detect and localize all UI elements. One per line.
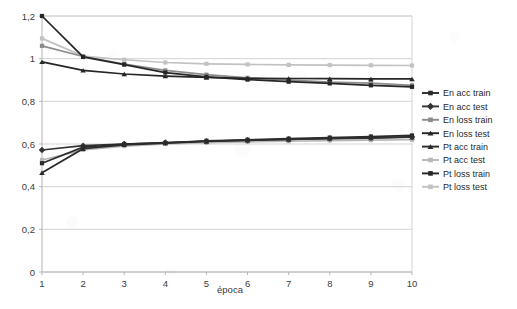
legend-label: En acc train [443,88,491,98]
data-marker-square [328,136,332,140]
data-marker-square [40,36,44,40]
data-marker-square [410,85,414,89]
data-marker-square [122,63,126,67]
data-marker-square [122,142,126,146]
x-tick-label: 9 [368,278,373,289]
y-tick-label: 1 [30,53,35,64]
data-marker-square [40,161,44,165]
legend-label: En loss test [443,129,490,139]
legend-label: Pt loss test [443,182,488,192]
y-tick-label: 0,2 [22,224,35,235]
legend-label: Pt acc test [443,155,486,165]
data-marker-square [428,158,433,163]
x-tick-label: 10 [407,278,418,289]
data-marker-square [328,63,332,67]
y-tick-label: 0,6 [22,139,35,150]
data-marker-square [40,14,44,18]
legend-label: En loss train [443,115,493,125]
chart-background [0,0,517,309]
data-marker-square [122,58,126,62]
y-tick-label: 0 [30,267,35,278]
data-marker-square [369,63,373,67]
line-chart: 00,20,40,60,811,2 12345678910 época En a… [0,0,517,309]
data-marker-square [287,137,291,141]
data-marker-square [328,81,332,85]
data-marker-square [369,134,373,138]
x-axis-title: época [217,284,244,295]
data-marker-square [287,63,291,67]
legend-label: Pt acc train [443,142,488,152]
data-marker-square [163,70,167,74]
data-marker-square [428,171,433,176]
data-marker-square [287,80,291,84]
x-tick-label: 4 [163,278,168,289]
x-tick-label: 7 [286,278,291,289]
chart-container: 00,20,40,60,811,2 12345678910 época En a… [0,0,517,309]
data-marker-square [245,62,249,66]
x-tick-label: 8 [327,278,332,289]
data-marker-square [40,44,44,48]
data-marker-square [245,138,249,142]
legend-label: Pt loss train [443,169,490,179]
y-tick-label: 1,2 [22,11,35,22]
x-tick-label: 6 [245,278,250,289]
legend-label: En acc test [443,102,488,112]
data-marker-square [428,91,433,96]
data-marker-square [245,77,249,81]
data-marker-square [410,133,414,137]
x-tick-label: 2 [80,278,85,289]
data-marker-square [204,62,208,66]
data-marker-square [428,118,433,123]
y-tick-label: 0,4 [22,181,35,192]
data-marker-square [163,60,167,64]
y-tick-label: 0,8 [22,96,35,107]
data-marker-square [204,139,208,143]
x-tick-label: 3 [122,278,127,289]
data-marker-square [410,63,414,67]
data-marker-square [163,141,167,145]
x-tick-label: 5 [204,278,209,289]
data-marker-square [369,83,373,87]
data-marker-square [81,145,85,149]
data-marker-square [428,185,433,190]
data-marker-square [204,75,208,79]
x-tick-label: 1 [39,278,44,289]
data-marker-square [81,55,85,59]
